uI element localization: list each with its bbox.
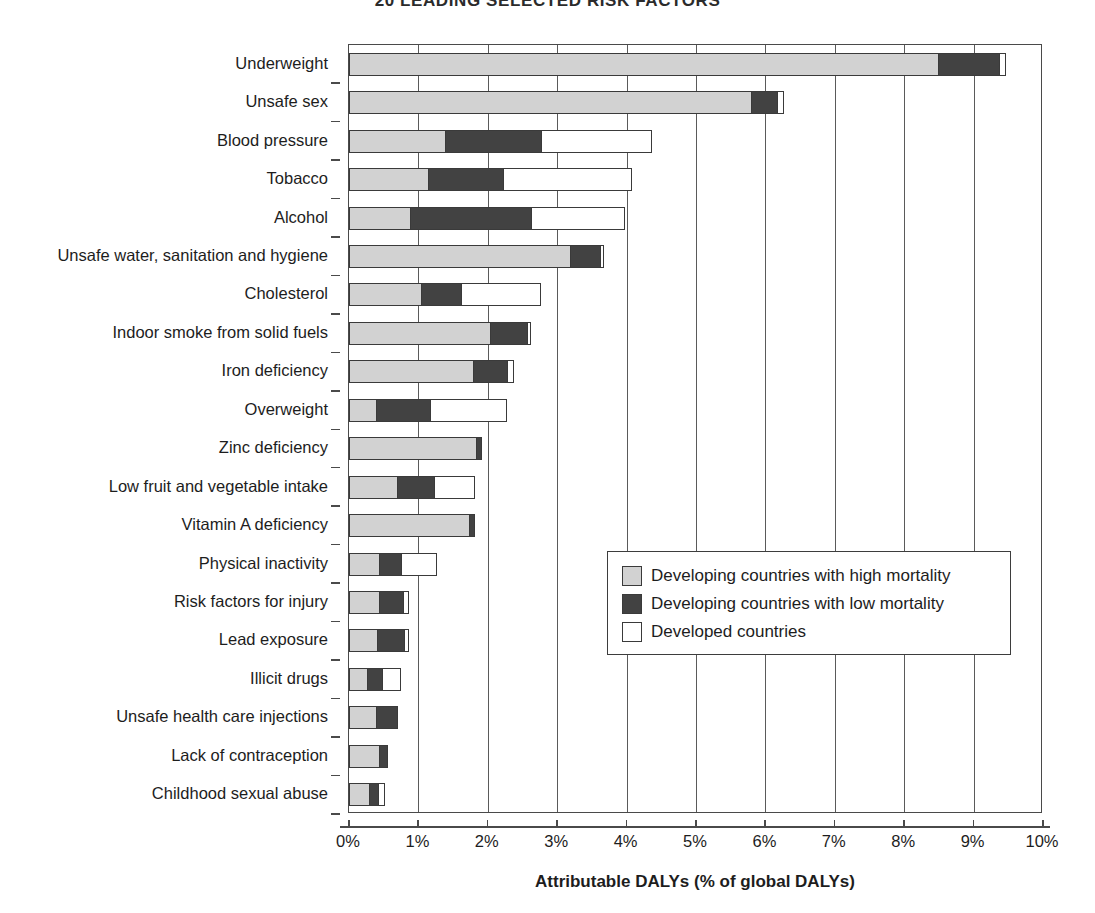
bars-layer <box>349 45 1041 812</box>
bar-segment <box>376 399 432 422</box>
x-axis-tick <box>417 820 419 828</box>
bar-segment <box>469 514 475 537</box>
category-label: Tobacco <box>267 167 328 190</box>
category-label: Unsafe water, sanitation and hygiene <box>57 244 328 267</box>
bar-segment <box>349 514 470 537</box>
bar-row[interactable] <box>349 629 408 652</box>
bar-row[interactable] <box>349 783 384 806</box>
bar-segment <box>349 668 368 691</box>
bar-segment <box>349 745 380 768</box>
y-axis-tick <box>331 121 340 123</box>
y-axis-tick <box>331 313 340 315</box>
bar-row[interactable] <box>349 322 530 345</box>
x-axis-tick <box>764 820 766 828</box>
y-axis-tick <box>331 505 340 507</box>
y-axis-tick <box>331 159 340 161</box>
bar-segment <box>403 591 410 614</box>
bar-segment <box>349 91 752 114</box>
y-axis-tick <box>331 813 340 815</box>
bar-row[interactable] <box>349 130 651 153</box>
bar-row[interactable] <box>349 476 474 499</box>
bar-segment <box>430 399 506 422</box>
bar-segment <box>349 783 370 806</box>
x-axis-tick <box>556 820 558 828</box>
bar-row[interactable] <box>349 514 474 537</box>
bar-segment <box>507 360 514 383</box>
bar-segment <box>527 322 530 345</box>
bar-row[interactable] <box>349 668 400 691</box>
y-axis-tick <box>331 82 340 84</box>
bar-row[interactable] <box>349 283 540 306</box>
plot-area <box>348 44 1042 813</box>
legend-swatch-low-mortality-icon <box>622 594 642 614</box>
y-axis-tick <box>331 198 340 200</box>
bar-segment <box>503 168 631 191</box>
bar-row[interactable] <box>349 706 397 729</box>
category-label: Physical inactivity <box>199 552 328 575</box>
y-axis-tick <box>331 698 340 700</box>
x-axis-tick-label: 10% <box>1012 832 1072 851</box>
y-axis-tick <box>331 621 340 623</box>
bar-segment <box>397 476 435 499</box>
bar-row[interactable] <box>349 745 387 768</box>
bar-segment <box>379 553 402 576</box>
x-axis-tick <box>626 820 628 828</box>
bar-row[interactable] <box>349 53 1005 76</box>
category-label: Unsafe health care injections <box>116 705 328 728</box>
category-label: Vitamin A deficiency <box>182 513 328 536</box>
category-axis: UnderweightUnsafe sexBlood pressureTobac… <box>0 44 340 813</box>
category-label: Unsafe sex <box>245 90 328 113</box>
bar-segment <box>367 668 382 691</box>
bar-row[interactable] <box>349 591 408 614</box>
bar-segment <box>378 783 385 806</box>
legend-item[interactable]: Developed countries <box>622 618 1010 646</box>
y-axis-tick <box>331 775 340 777</box>
bar-segment <box>401 553 437 576</box>
bar-segment <box>349 168 429 191</box>
y-axis-tick <box>331 659 340 661</box>
bar-segment <box>349 130 446 153</box>
bar-segment <box>428 168 504 191</box>
x-axis-tick <box>973 820 975 828</box>
bar-row[interactable] <box>349 437 481 460</box>
bar-segment <box>600 245 603 268</box>
bar-segment <box>404 629 410 652</box>
x-axis-tick-label: 8% <box>873 832 933 851</box>
bar-segment <box>349 629 378 652</box>
bar-segment <box>421 283 463 306</box>
bar-segment <box>445 130 542 153</box>
bar-row[interactable] <box>349 360 513 383</box>
category-label: Underweight <box>235 52 328 75</box>
x-axis-tick-label: 6% <box>734 832 794 851</box>
category-label: Zinc deficiency <box>219 436 328 459</box>
bar-segment <box>531 207 625 230</box>
x-axis-tick <box>487 820 489 828</box>
bar-segment <box>473 360 508 383</box>
bar-row[interactable] <box>349 168 631 191</box>
y-axis-tick <box>331 390 340 392</box>
bar-segment <box>349 322 491 345</box>
legend-item[interactable]: Developing countries with low mortality <box>622 590 1010 618</box>
bar-row[interactable] <box>349 91 783 114</box>
category-label: Indoor smoke from solid fuels <box>112 321 328 344</box>
legend: Developing countries with high mortality… <box>607 551 1011 655</box>
bar-row[interactable] <box>349 399 506 422</box>
bar-row[interactable] <box>349 553 436 576</box>
category-label: Overweight <box>245 398 328 421</box>
page-title: 20 LEADING SELECTED RISK FACTORS <box>0 0 1095 11</box>
bar-segment <box>382 668 401 691</box>
bar-segment <box>349 207 411 230</box>
category-label: Childhood sexual abuse <box>152 782 328 805</box>
y-axis-tick <box>331 736 340 738</box>
x-axis-tick <box>695 820 697 828</box>
legend-item[interactable]: Developing countries with high mortality <box>622 562 1010 590</box>
bar-row[interactable] <box>349 207 624 230</box>
legend-item-label: Developing countries with high mortality <box>651 566 951 586</box>
bar-segment <box>476 437 482 460</box>
x-axis-tick-label: 2% <box>457 832 517 851</box>
bar-segment <box>376 706 398 729</box>
bar-segment <box>777 91 784 114</box>
x-axis-title: Attributable DALYs (% of global DALYs) <box>348 872 1042 892</box>
bar-row[interactable] <box>349 245 603 268</box>
x-axis-tick-label: 7% <box>804 832 864 851</box>
